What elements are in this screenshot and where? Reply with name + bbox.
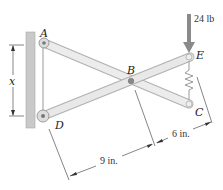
force-label: 24 lb (194, 13, 214, 24)
dim-label-9in: 9 in. (100, 155, 118, 166)
ext-line-D (49, 129, 69, 180)
label-A: A (39, 27, 48, 40)
bar-AC (44, 43, 189, 104)
pin-B (128, 78, 134, 84)
diagram-canvas: A B C D E x 24 lb 9 in. 6 in. (0, 0, 223, 190)
pin-D-center (41, 114, 45, 118)
label-B: B (126, 64, 135, 77)
label-x: x (9, 75, 16, 88)
bar-DE (43, 57, 190, 116)
label-D: D (54, 119, 64, 132)
wall-support (26, 32, 35, 128)
dim-label-6in: 6 in. (172, 128, 190, 139)
spring (185, 61, 193, 100)
pin-A-center (42, 41, 46, 45)
linkage-diagram: A B C D E x 24 lb 9 in. 6 in. (0, 0, 223, 190)
pin-C (186, 101, 192, 107)
pin-E (186, 54, 192, 60)
label-E: E (195, 49, 204, 62)
ext-line-B (135, 90, 155, 146)
label-C: C (195, 106, 204, 119)
